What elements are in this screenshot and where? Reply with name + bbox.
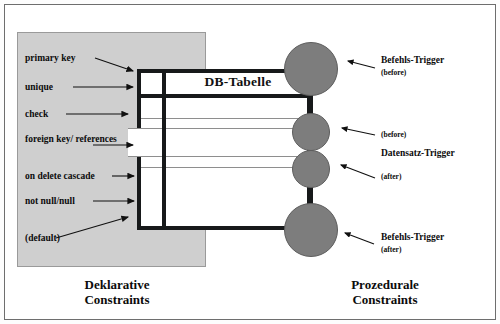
trigger-node-datensatz-before <box>292 113 330 151</box>
trigger-timing-datensatz-before: (before) <box>381 130 406 139</box>
table-row-separator <box>141 167 308 168</box>
trigger-label-datensatz: Datensatz-Trigger <box>381 148 455 158</box>
trigger-timing-befehls-before: (before) <box>381 68 406 77</box>
trigger-node-befehls-before <box>284 42 338 96</box>
trigger-timing-datensatz-after: (after) <box>381 172 401 181</box>
constraint-label-check: check <box>25 109 48 120</box>
constraint-label-default: (default) <box>25 233 60 244</box>
table-record-row <box>128 128 312 157</box>
trigger-label-befehls-after: Befehls-Trigger <box>381 232 444 242</box>
trigger-timing-befehls-after: (after) <box>381 245 401 254</box>
trigger-node-befehls-after <box>284 203 338 257</box>
caption-declarative: Deklarative Constraints <box>42 277 192 307</box>
trigger-label-befehls-before: Befehls-Trigger <box>381 55 444 65</box>
table-column-divider <box>162 69 166 230</box>
constraint-label-unique: unique <box>25 82 53 93</box>
trigger-node-datensatz-after <box>292 150 330 188</box>
constraint-label-not-null: not null/null <box>25 196 75 207</box>
constraint-label-foreign-key: foreign key/ references <box>25 134 117 145</box>
diagram-canvas: DB-Tabelle primary key unique check f <box>0 0 500 324</box>
constraint-label-primary-key: primary key <box>25 53 75 64</box>
table-row-separator <box>141 118 308 119</box>
caption-procedural: Prozedurale Constraints <box>305 277 465 307</box>
constraint-label-on-delete-cascade: on delete cascade <box>25 171 95 182</box>
